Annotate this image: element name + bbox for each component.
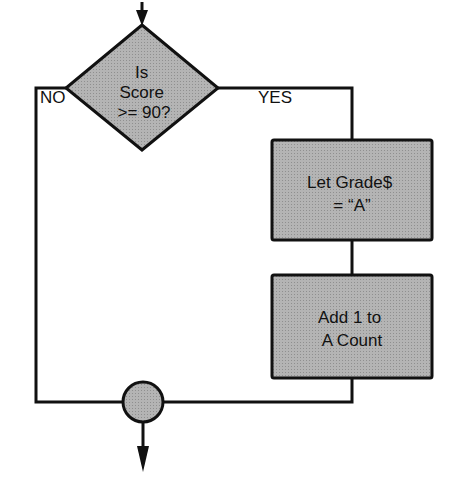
return-line [163,378,352,402]
exit-arrow [137,422,149,472]
yes-label: YES [258,88,292,107]
no-branch-line [36,88,123,402]
flowchart: Is Score >= 90? NO YES Let Grade$ = “A” … [0,0,454,500]
no-label: NO [40,88,66,107]
merge-connector [123,382,163,422]
entry-arrow [136,2,148,26]
